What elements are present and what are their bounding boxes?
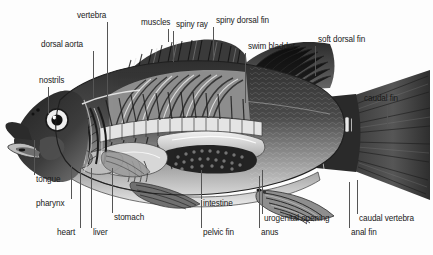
label-anal-fin: anal fin [351, 228, 377, 237]
intestine-leader [201, 170, 202, 199]
label-caudal-vertebra: caudal vertebra [359, 214, 414, 223]
label-stomach: stomach [114, 213, 144, 222]
label-swim-bladder: swim bladder [248, 42, 295, 51]
liver-leader [91, 168, 92, 228]
label-caudal-fin: caudal fin [364, 94, 398, 103]
muscles-leader [168, 29, 169, 42]
label-intestine: intestine [203, 199, 233, 208]
label-pelvic-fin: pelvic fin [203, 228, 234, 237]
label-anus: anus [261, 228, 278, 237]
label-tongue: tongue [36, 175, 60, 184]
label-soft-dorsal-fin: soft dorsal fin [318, 35, 365, 44]
heart-leader [80, 168, 81, 228]
anal-fin-leader [349, 182, 350, 228]
dorsal-aorta-leader [93, 51, 94, 99]
caudal-vertebra-leader [357, 180, 358, 214]
label-heart: heart [57, 228, 75, 237]
label-dorsal-aorta: dorsal aorta [41, 40, 83, 49]
stomach-leader [112, 168, 113, 213]
label-liver: liver [93, 228, 108, 237]
soft-dorsal-fin-leader [315, 46, 316, 76]
label-urogenital-opening: urogenital opening [264, 214, 330, 223]
spiny-dorsal-fin-leader [213, 27, 214, 57]
label-vertebra: vertebra [77, 11, 106, 20]
tongue-leader [34, 140, 35, 175]
anus-leader [259, 176, 260, 228]
label-pharynx: pharynx [36, 199, 64, 208]
label-nostrils: nostrils [39, 76, 64, 85]
swim-bladder-leader [245, 53, 246, 103]
urogenital-opening-leader [262, 170, 263, 214]
pharynx-leader [71, 165, 72, 199]
fish-anatomy-diagram: vertebramusclesspiny rayspiny dorsal fin… [0, 0, 433, 255]
caudal-fin-leader [387, 105, 388, 127]
vertebra-leader [107, 22, 108, 98]
spiny-ray-leader [173, 31, 174, 62]
label-spiny-ray: spiny ray [176, 20, 208, 29]
nostrils-leader [48, 87, 49, 115]
label-muscles: muscles [141, 18, 170, 27]
label-spiny-dorsal-fin: spiny dorsal fin [216, 16, 269, 25]
pelvic-fin-leader [201, 200, 202, 228]
